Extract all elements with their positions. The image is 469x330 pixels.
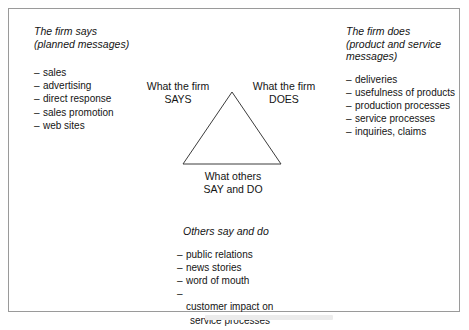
dash-icon: – [346,99,355,112]
list-item-label: production processes [355,99,450,112]
dash-icon: – [346,86,355,99]
triangle-label-says: What the firm SAYS [135,80,221,105]
dash-icon: – [177,261,186,274]
list-item-label: sales [43,66,66,79]
list-item-label: usefulness of products [355,86,455,99]
list-item-label: service processes [355,112,435,125]
right-column-list: – deliveries – usefulness of products – … [346,73,466,139]
list-item-label: inquiries, claims [355,125,426,138]
dash-icon: – [177,274,186,287]
list-item: – customer impact on service processes [177,287,337,330]
dash-icon: – [34,119,43,132]
triangle-label-others: What others SAY and DO [181,170,285,195]
list-item-label: public relations [186,248,253,261]
figure-shadow [205,315,333,320]
figure-frame: The firm says (planned messages) – sales… [8,8,460,312]
right-column: The firm does (product and service messa… [346,25,466,139]
dash-icon: – [346,125,355,138]
dash-icon: – [346,73,355,86]
list-item-label: advertising [43,79,91,92]
list-item-label: sales promotion [43,106,114,119]
dash-icon: – [34,106,43,119]
list-item-label: web sites [43,119,85,132]
right-column-heading: The firm does (product and service messa… [346,25,466,63]
list-item: – news stories [177,261,337,274]
list-item-label: customer impact on [186,301,273,312]
list-item: – public relations [177,248,337,261]
dash-icon: – [34,92,43,105]
list-item: – usefulness of products [346,86,466,99]
dash-icon: – [34,66,43,79]
left-column-heading: The firm says (planned messages) [34,25,169,50]
triangle-label-does: What the firm DOES [241,80,327,105]
list-item: – service processes [346,112,466,125]
dash-icon: – [346,112,355,125]
list-item-label: word of mouth [186,274,249,287]
dash-icon: – [177,248,186,261]
list-item-label: direct response [43,92,111,105]
list-item-label-wrapped: customer impact on service processes [186,287,273,330]
bottom-column-heading: Others say and do [183,225,337,238]
dash-icon: – [34,79,43,92]
list-item: – production processes [346,99,466,112]
list-item-label: deliveries [355,73,397,86]
list-item-label: news stories [186,261,242,274]
list-item: – inquiries, claims [346,125,466,138]
dash-icon: – [177,287,186,300]
list-item: – deliveries [346,73,466,86]
triangle-diagram: What the firm SAYS What the firm DOES Wh… [129,75,334,205]
list-item: – word of mouth [177,274,337,287]
